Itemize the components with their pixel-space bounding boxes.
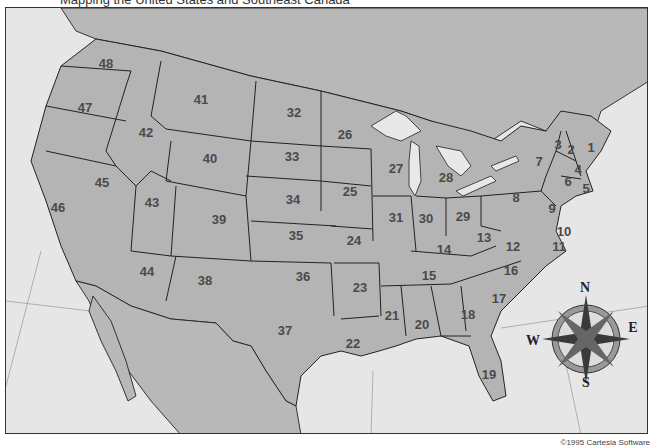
state-label-24[interactable]: 24 — [347, 233, 361, 248]
state-label-2[interactable]: 2 — [567, 142, 574, 157]
state-label-26[interactable]: 26 — [338, 127, 352, 142]
state-label-27[interactable]: 27 — [389, 161, 403, 176]
map-geometry — [6, 8, 648, 434]
state-label-4[interactable]: 4 — [574, 162, 581, 177]
state-label-36[interactable]: 36 — [296, 269, 310, 284]
state-label-13[interactable]: 13 — [477, 230, 491, 245]
compass-north-label: N — [580, 280, 590, 296]
copyright-notice: ©1995 Cartesia Software — [561, 438, 651, 447]
state-label-47[interactable]: 47 — [78, 100, 92, 115]
state-label-44[interactable]: 44 — [140, 264, 154, 279]
state-label-9[interactable]: 9 — [548, 201, 555, 216]
state-label-3[interactable]: 3 — [554, 137, 561, 152]
state-label-39[interactable]: 39 — [212, 212, 226, 227]
map-caption: Mapping the United States and Southeast … — [60, 0, 350, 7]
state-label-8[interactable]: 8 — [512, 190, 519, 205]
state-label-17[interactable]: 17 — [492, 291, 506, 306]
state-label-23[interactable]: 23 — [353, 280, 367, 295]
compass-south-label: S — [582, 375, 590, 391]
state-label-6[interactable]: 6 — [564, 174, 571, 189]
state-label-20[interactable]: 20 — [415, 317, 429, 332]
compass-rose — [542, 295, 630, 383]
state-label-11[interactable]: 11 — [552, 239, 566, 254]
state-label-15[interactable]: 15 — [422, 268, 436, 283]
map-canvas[interactable]: N S E W 12345678910111213141516171819202… — [5, 7, 648, 434]
state-label-16[interactable]: 16 — [504, 263, 518, 278]
state-label-28[interactable]: 28 — [439, 170, 453, 185]
state-label-14[interactable]: 14 — [437, 242, 451, 257]
state-label-48[interactable]: 48 — [99, 56, 113, 71]
state-label-46[interactable]: 46 — [51, 200, 65, 215]
compass-west-label: W — [526, 333, 540, 349]
state-label-5[interactable]: 5 — [582, 181, 589, 196]
state-label-25[interactable]: 25 — [343, 184, 357, 199]
state-label-33[interactable]: 33 — [285, 149, 299, 164]
state-label-18[interactable]: 18 — [461, 307, 475, 322]
state-label-37[interactable]: 37 — [278, 323, 292, 338]
state-label-19[interactable]: 19 — [482, 367, 496, 382]
compass-east-label: E — [628, 320, 637, 336]
state-label-31[interactable]: 31 — [389, 210, 403, 225]
state-label-22[interactable]: 22 — [346, 336, 360, 351]
state-label-7[interactable]: 7 — [535, 154, 542, 169]
state-label-38[interactable]: 38 — [198, 273, 212, 288]
state-label-40[interactable]: 40 — [203, 151, 217, 166]
state-label-45[interactable]: 45 — [95, 175, 109, 190]
state-label-12[interactable]: 12 — [506, 239, 520, 254]
state-label-41[interactable]: 41 — [194, 92, 208, 107]
state-label-1[interactable]: 1 — [587, 140, 594, 155]
state-label-32[interactable]: 32 — [287, 105, 301, 120]
state-label-42[interactable]: 42 — [139, 125, 153, 140]
state-label-29[interactable]: 29 — [456, 209, 470, 224]
state-label-30[interactable]: 30 — [419, 211, 433, 226]
state-label-43[interactable]: 43 — [145, 195, 159, 210]
state-label-21[interactable]: 21 — [385, 308, 399, 323]
state-label-34[interactable]: 34 — [286, 192, 300, 207]
state-label-10[interactable]: 10 — [557, 224, 571, 239]
state-label-35[interactable]: 35 — [289, 228, 303, 243]
